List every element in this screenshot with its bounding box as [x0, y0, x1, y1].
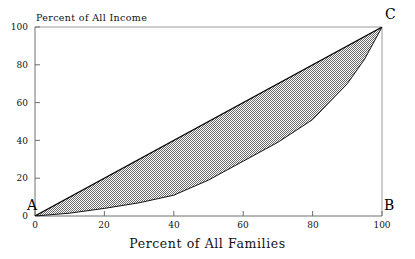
corner-label-b: B — [384, 198, 394, 212]
y-tick-label-80: 80 — [2, 60, 28, 70]
x-tick-label-80: 80 — [300, 220, 326, 230]
x-tick-label-0: 0 — [22, 220, 48, 230]
line-of-equality — [35, 27, 382, 216]
y-axis-title: Percent of All Income — [36, 12, 147, 23]
y-tick-label-40: 40 — [2, 136, 28, 146]
y-tick-label-100: 100 — [2, 22, 28, 32]
x-tick-label-20: 20 — [91, 220, 117, 230]
y-tick-label-20: 20 — [2, 173, 28, 183]
plot-canvas — [0, 0, 415, 259]
x-tick-label-60: 60 — [230, 220, 256, 230]
y-tick-label-60: 60 — [2, 98, 28, 108]
x-tick-label-40: 40 — [161, 220, 187, 230]
x-tick-label-100: 100 — [369, 220, 395, 230]
lorenz-curve-figure: Percent of All Income 100 80 60 40 20 0 … — [0, 0, 415, 259]
corner-label-c: C — [385, 7, 396, 21]
corner-label-a: A — [27, 198, 37, 212]
x-axis-title: Percent of All Families — [0, 236, 415, 251]
